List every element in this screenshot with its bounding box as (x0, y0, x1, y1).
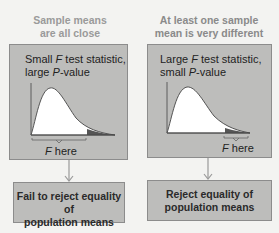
title-text: -value (60, 66, 90, 78)
f-here-text: here (52, 145, 77, 157)
reject-box: Reject equality of population means (147, 180, 272, 221)
small-f-panel-title: Small F test statistic, large P-value (25, 53, 126, 79)
result-line1: Fail to reject equality of (14, 190, 124, 216)
f-var: F (45, 145, 52, 157)
title-text: Small (25, 53, 56, 65)
title-var: P (189, 66, 196, 78)
right-heading: At least one sample mean is very differe… (139, 14, 279, 40)
large-f-panel-title: Large F test statistic, small P-value (160, 53, 262, 79)
result-line2: population means (148, 201, 271, 214)
f-here-text: here (229, 142, 254, 154)
result-line1: Reject equality of (148, 188, 271, 201)
title-text: small (160, 66, 189, 78)
result-line2: population means (14, 216, 124, 229)
f-var: F (222, 142, 229, 154)
title-text: test statistic, (198, 53, 262, 65)
small-f-panel: Small F test statistic, large P-value (9, 44, 128, 160)
title-text: test statistic, (62, 53, 126, 65)
large-f-here-label: F here (222, 142, 254, 154)
title-var: P (53, 66, 60, 78)
left-heading-line1: Sample means (0, 14, 140, 27)
left-heading-line2: are all close (0, 27, 140, 40)
title-text: large (25, 66, 53, 78)
title-text: -value (196, 66, 226, 78)
fail-to-reject-box: Fail to reject equality of population me… (13, 182, 125, 223)
title-text: Large (160, 53, 191, 65)
large-f-panel: Large F test statistic, small P-value (147, 44, 272, 158)
right-heading-line2: mean is very different (139, 27, 279, 40)
small-f-here-label: F here (45, 145, 77, 157)
left-heading: Sample means are all close (0, 14, 140, 40)
title-var: F (191, 53, 198, 65)
right-heading-line1: At least one sample (139, 14, 279, 27)
